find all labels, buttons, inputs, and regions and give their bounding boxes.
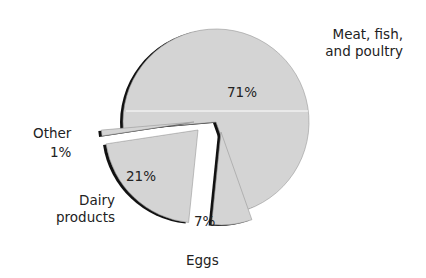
- pct-other: 1%: [50, 144, 71, 161]
- label-other: Other: [33, 125, 71, 142]
- label-meat: Meat, fish, and poultry: [303, 26, 403, 60]
- label-dairy-line1: Dairy: [45, 192, 115, 209]
- label-meat-line1: Meat, fish,: [303, 26, 403, 43]
- label-meat-line2: and poultry: [303, 43, 403, 60]
- pct-meat: 71%: [227, 84, 257, 101]
- pct-dairy: 21%: [126, 168, 156, 185]
- label-eggs: Eggs: [186, 252, 219, 269]
- pct-eggs: 7%: [194, 213, 215, 230]
- label-dairy: Dairy products: [45, 192, 115, 226]
- label-dairy-line2: products: [45, 209, 115, 226]
